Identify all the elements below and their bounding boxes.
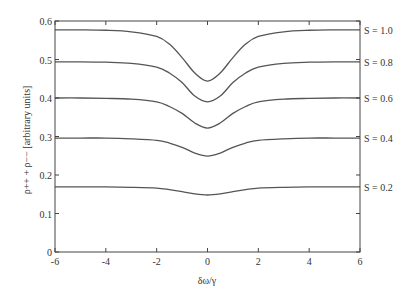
x-tick-label: -6 bbox=[51, 256, 59, 267]
x-tick-label: -2 bbox=[152, 256, 160, 267]
y-tick-label: 0.3 bbox=[40, 132, 53, 143]
x-tick-label: 0 bbox=[205, 256, 210, 267]
series-line bbox=[55, 62, 360, 102]
series-label: S = 0.2 bbox=[364, 182, 393, 193]
series-line bbox=[55, 187, 360, 195]
y-tick-label: 0.6 bbox=[40, 16, 53, 27]
series-labels: S = 1.0S = 0.8S = 0.6S = 0.4S = 0.2 bbox=[364, 25, 393, 193]
series-label: S = 0.8 bbox=[364, 57, 393, 68]
series-line bbox=[55, 138, 360, 156]
y-tick-label: 0.1 bbox=[40, 209, 53, 220]
series-label: S = 0.6 bbox=[364, 93, 393, 104]
y-tick-label: 0.2 bbox=[40, 170, 53, 181]
y-tick-label: 0.5 bbox=[40, 55, 53, 66]
chart: -6-4-20246 00.10.20.30.40.50.6 S = 1.0S … bbox=[0, 0, 409, 296]
x-tick-label: 2 bbox=[256, 256, 261, 267]
y-axis-label: ρ++ + ρ−− [arbitrary units] bbox=[21, 86, 32, 195]
x-tick-label: -4 bbox=[102, 256, 110, 267]
y-tick-label: 0 bbox=[47, 247, 52, 258]
plot-frame bbox=[55, 21, 360, 252]
series-label: S = 1.0 bbox=[364, 25, 393, 36]
y-tick-label: 0.4 bbox=[40, 93, 53, 104]
axis-ticks bbox=[55, 21, 360, 252]
x-axis-label: δω/γ bbox=[198, 275, 217, 286]
series-lines bbox=[55, 30, 360, 195]
series-line bbox=[55, 30, 360, 81]
y-tick-labels: 00.10.20.30.40.50.6 bbox=[40, 16, 53, 258]
series-label: S = 0.4 bbox=[364, 133, 393, 144]
x-tick-label: 6 bbox=[358, 256, 363, 267]
x-tick-label: 4 bbox=[307, 256, 312, 267]
x-tick-labels: -6-4-20246 bbox=[51, 256, 363, 267]
